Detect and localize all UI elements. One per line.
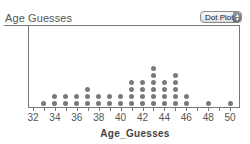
x-tick-label: 32 <box>23 112 43 123</box>
x-tick <box>132 108 133 111</box>
data-dot <box>162 87 167 92</box>
x-tick-label: 44 <box>154 112 174 123</box>
x-tick <box>219 108 220 111</box>
data-dot <box>151 66 156 71</box>
x-tick <box>66 108 67 111</box>
data-dot <box>140 101 145 106</box>
data-dot <box>173 94 178 99</box>
data-dot <box>140 87 145 92</box>
x-tick-label: 50 <box>220 112 240 123</box>
data-dot <box>140 94 145 99</box>
x-tick-label: 46 <box>176 112 196 123</box>
data-dot <box>173 80 178 85</box>
chart-title: Age Guesses <box>5 12 72 24</box>
data-dot <box>184 94 189 99</box>
x-tick-label: 38 <box>89 112 109 123</box>
x-tick <box>77 108 78 111</box>
x-tick-label: 34 <box>45 112 65 123</box>
x-tick-label: 42 <box>133 112 153 123</box>
x-tick <box>55 108 56 111</box>
data-dot <box>162 94 167 99</box>
data-dot <box>206 101 211 106</box>
data-dot <box>228 101 233 106</box>
x-tick <box>153 108 154 111</box>
x-tick <box>164 108 165 111</box>
data-dot <box>162 80 167 85</box>
x-tick <box>110 108 111 111</box>
data-dot <box>162 101 167 106</box>
data-dot <box>151 73 156 78</box>
data-dot <box>173 87 178 92</box>
data-dot <box>151 101 156 106</box>
x-tick <box>208 108 209 111</box>
data-dot <box>151 80 156 85</box>
x-axis-label: Age_Guesses <box>0 128 250 139</box>
x-tick <box>44 108 45 111</box>
data-dot <box>184 101 189 106</box>
x-tick-label: 36 <box>67 112 87 123</box>
x-tick <box>88 108 89 111</box>
x-tick <box>186 108 187 111</box>
x-tick <box>197 108 198 111</box>
x-tick <box>33 108 34 111</box>
up-down-arrows-icon: ▲▼ <box>233 12 241 22</box>
data-dot <box>140 80 145 85</box>
data-dot <box>173 73 178 78</box>
plot-type-dropdown[interactable]: Dot Plot ▲▼ <box>200 11 242 23</box>
x-tick <box>99 108 100 111</box>
x-tick-label: 48 <box>198 112 218 123</box>
x-tick <box>230 108 231 111</box>
data-dot <box>151 87 156 92</box>
x-tick-label: 40 <box>111 112 131 123</box>
x-tick <box>143 108 144 111</box>
x-tick <box>175 108 176 111</box>
data-dot <box>151 94 156 99</box>
x-tick <box>121 108 122 111</box>
data-dot <box>173 101 178 106</box>
plot-type-selected: Dot Plot <box>201 13 233 22</box>
